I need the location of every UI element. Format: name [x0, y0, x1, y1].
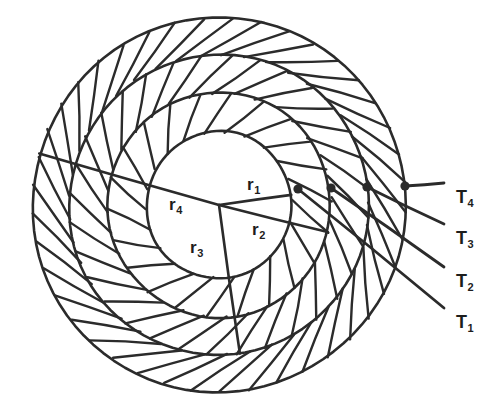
hatch-line-layer2-25: [276, 107, 332, 109]
hatch-line-layer2-24: [255, 88, 312, 100]
hatch-line-layer3-13: [44, 268, 105, 303]
radius-label-r4: r4: [169, 196, 182, 213]
temperature-label-T1: T1: [456, 313, 473, 331]
hatch-line-layer1-19: [277, 161, 326, 169]
hatch-line-layer1-2: [269, 256, 270, 305]
radius-line-r1: [219, 195, 291, 205]
node-T4-dot: [400, 181, 409, 190]
label-base: r: [252, 220, 259, 239]
hatch-line-layer3-34: [341, 115, 399, 154]
radius-line-r4: [39, 153, 219, 205]
cylinder-cross-section-diagram: [0, 0, 499, 408]
hatch-line-layer2-1: [315, 262, 316, 320]
hatch-line-layer1-16: [225, 102, 264, 133]
hatch-line-layer1-5: [175, 277, 213, 307]
label-subscript: 2: [468, 281, 474, 293]
hatch-line-layer3-30: [266, 61, 338, 62]
figure-container: r1r2r3r4T4T3T2T1: [0, 0, 499, 408]
hatch-line-layer2-17: [121, 91, 122, 150]
hatch-line-layer3-0: [350, 269, 355, 339]
hatch-line-layer1-7: [127, 264, 174, 268]
radius-label-r2: r2: [252, 221, 265, 238]
hatch-line-layer1-18: [264, 142, 311, 148]
label-base: r: [247, 175, 254, 194]
temperature-label-T3: T3: [456, 229, 473, 247]
hatch-line-layer1-15: [204, 93, 231, 133]
radius-label-r1: r1: [247, 176, 260, 193]
node-T1-dot: [293, 184, 302, 193]
hatch-line-layer3-40: [363, 247, 368, 318]
hatch-line-layer1-9: [107, 209, 150, 230]
hatch-line-layer2-7: [150, 316, 204, 339]
hatch-line-layer3-12: [55, 295, 122, 318]
hatch-line-layer3-9: [113, 351, 181, 358]
hatch-line-layer2-5: [207, 313, 249, 354]
radius-label-r3: r3: [190, 239, 203, 256]
hatch-line-layer2-0: [324, 241, 337, 299]
node-T2-dot: [326, 183, 335, 192]
label-subscript: 3: [197, 247, 203, 259]
temperature-label-T2: T2: [456, 272, 473, 290]
hatch-line-layer2-9: [104, 302, 163, 303]
hatch-line-layer1-6: [148, 274, 194, 292]
hatch-line-layer1-13: [168, 105, 171, 154]
label-subscript: 1: [468, 322, 474, 334]
label-base: T: [456, 228, 467, 248]
label-base: r: [190, 238, 197, 257]
hatch-line-layer2-29: [327, 176, 368, 218]
hatch-line-layer2-16: [101, 113, 113, 170]
hatch-line-layer3-7: [164, 354, 227, 383]
hatch-line-layer1-12: [144, 122, 155, 169]
hatch-line-layer1-17: [244, 119, 290, 136]
hatch-line-layer2-6: [178, 317, 226, 350]
hatch-line-layer3-10: [90, 340, 161, 344]
label-subscript: 4: [176, 204, 182, 216]
label-base: r: [169, 195, 176, 214]
leader-line-T4: [405, 183, 444, 186]
label-subscript: 4: [468, 197, 474, 209]
hatch-line-layer3-20: [78, 82, 79, 151]
label-subscript: 2: [259, 229, 265, 241]
label-base: T: [456, 312, 467, 332]
node-dot-group: [293, 181, 409, 193]
temperature-label-T4: T4: [456, 188, 473, 206]
hatch-line-layer2-22: [212, 60, 260, 93]
hatch-line-layer3-14: [36, 242, 91, 285]
label-base: T: [456, 271, 467, 291]
label-subscript: 1: [254, 184, 260, 196]
label-subscript: 3: [468, 238, 474, 250]
hatch-line-layer2-21: [189, 56, 232, 98]
hatch-line-layer2-8: [125, 310, 183, 323]
hatch-line-layer3-35: [352, 137, 405, 182]
label-base: T: [456, 187, 467, 207]
hatch-line-layer1-1: [283, 239, 294, 287]
hatch-line-layer3-29: [244, 45, 313, 58]
node-T3-dot: [362, 182, 371, 191]
hatch-line-layer1-8: [113, 240, 160, 248]
